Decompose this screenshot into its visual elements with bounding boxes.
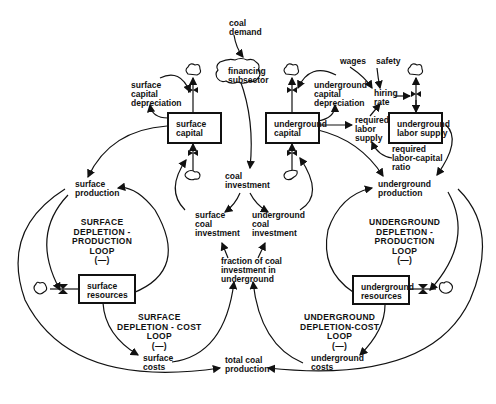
- hiring-rate-label: hiring rate: [374, 89, 398, 107]
- stock-surface-resources: surface resources: [78, 274, 136, 304]
- surface-capital-depreciation-label: surface capital depreciation: [131, 81, 182, 108]
- stock-underground-labor-supply: underground labor supply: [388, 112, 443, 144]
- underground-coal-investment-label: underground coal investment: [252, 211, 305, 238]
- stock-underground-resources: underground resources: [352, 275, 410, 305]
- stock-underground-capital: underground capital: [265, 112, 320, 144]
- required-labor-supply-label: required labor supply: [355, 116, 389, 143]
- safety-label: safety: [376, 57, 401, 66]
- surface-costs-label: surface costs: [143, 354, 173, 372]
- financing-subsector-label: financing subsector: [228, 67, 269, 85]
- coal-investment-label: coal investment: [225, 172, 270, 190]
- surface-coal-investment-label: surface coal investment: [195, 211, 240, 238]
- required-labor-capital-ratio-label: required labor-capital ratio: [392, 145, 443, 172]
- surface-depletion-production-loop: SURFACE DEPLETION - PRODUCTION LOOP (—): [72, 218, 132, 266]
- underground-depletion-cost-loop: UNDERGROUND DEPLETION-COST LOOP (—): [300, 313, 379, 351]
- underground-depletion-production-loop: UNDERGROUND DEPLETION - PRODUCTION LOOP …: [369, 218, 440, 266]
- fraction-underground-label: fraction of coal investment in undergrou…: [221, 257, 282, 284]
- stock-flow-diagram: surface capital underground capital unde…: [0, 0, 496, 404]
- surface-depletion-cost-loop: SURFACE DEPLETION - COST LOOP (—): [117, 313, 202, 351]
- underground-production-label: underground production: [378, 180, 431, 198]
- diagram-connectors: [0, 0, 496, 404]
- stock-surface-capital: surface capital: [167, 112, 222, 144]
- underground-costs-label: underground costs: [311, 354, 364, 372]
- surface-production-label: surface production: [75, 180, 119, 198]
- coal-demand-label: coal demand: [229, 19, 262, 37]
- wages-label: wages: [340, 57, 366, 66]
- underground-capital-depreciation-label: underground capital depreciation: [314, 81, 367, 108]
- total-coal-production-label: total coal production: [225, 356, 269, 374]
